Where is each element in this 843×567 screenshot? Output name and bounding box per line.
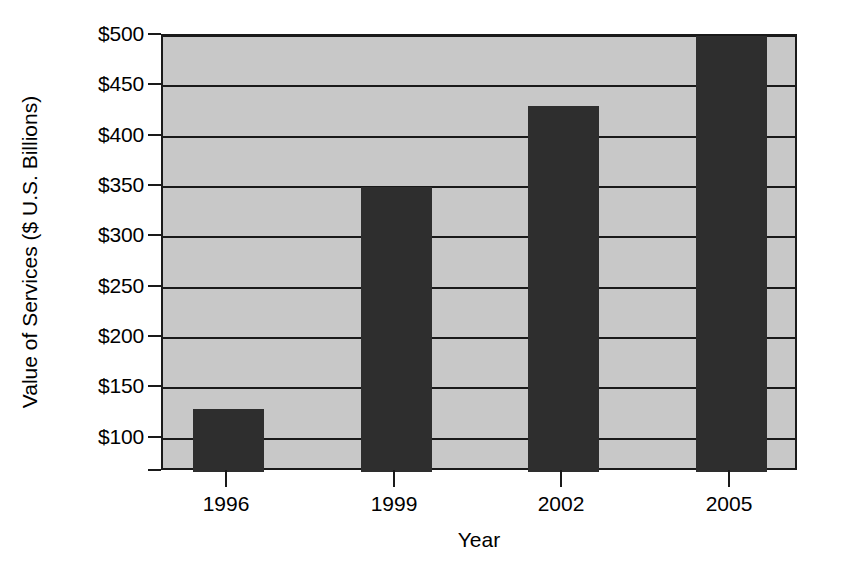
bar (361, 187, 432, 472)
y-axis-tick-label: $400 (56, 124, 144, 145)
y-axis-tick (148, 134, 161, 136)
plot-area (161, 34, 797, 470)
y-axis-baseline-tick (148, 469, 161, 471)
x-axis-tick (225, 470, 227, 487)
y-axis-title: Value of Services ($ U.S. Billions) (17, 32, 43, 472)
y-axis-tick-label: $200 (56, 325, 144, 346)
x-axis-tick (393, 470, 395, 487)
x-axis-tick-label: 1996 (166, 492, 286, 516)
y-axis-tick-label: $450 (56, 73, 144, 94)
y-axis-tick (148, 184, 161, 186)
bar (528, 106, 599, 472)
bar-chart-figure: $500$450$400$350$300$250$200$150$100 199… (0, 0, 843, 567)
x-axis-tick-label: 2005 (669, 492, 789, 516)
y-axis-tick (148, 335, 161, 337)
x-axis-tick-label: 1999 (334, 492, 454, 516)
x-axis-tick-label: 2002 (501, 492, 621, 516)
y-axis-tick-label: $250 (56, 275, 144, 296)
y-axis-tick (148, 234, 161, 236)
x-axis-title: Year (379, 528, 579, 552)
y-axis-tick (148, 285, 161, 287)
y-axis-tick-labels: $500$450$400$350$300$250$200$150$100 (52, 0, 144, 567)
y-axis-tick-label: $150 (56, 375, 144, 396)
y-axis-tick (148, 385, 161, 387)
y-axis-tick (148, 83, 161, 85)
y-axis-tick-label: $500 (56, 23, 144, 44)
bar (696, 36, 767, 472)
y-axis-tick (148, 436, 161, 438)
y-axis-tick-label: $100 (56, 426, 144, 447)
x-axis-tick (560, 470, 562, 487)
bar (193, 409, 264, 472)
y-axis-tick-label: $350 (56, 174, 144, 195)
y-axis-tick-label: $300 (56, 224, 144, 245)
y-axis-tick (148, 33, 161, 35)
x-axis-tick (728, 470, 730, 487)
